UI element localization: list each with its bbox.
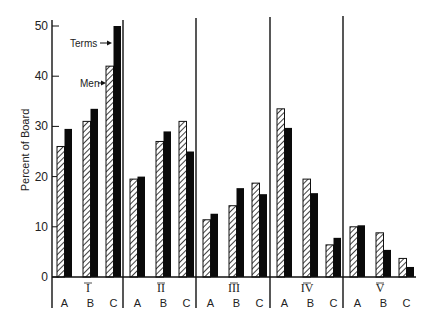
bar-terms-II-A (138, 177, 146, 277)
y-tick-label: 20 (35, 170, 49, 184)
subcategory-label: A (354, 297, 362, 309)
terms-annotation: Terms (70, 38, 97, 49)
bar-terms-II-B (164, 131, 172, 277)
bar-men-I-B (83, 121, 91, 277)
bar-men-IV-A (277, 109, 285, 277)
bar-men-IV-B (303, 179, 311, 277)
y-tick-label: 30 (35, 119, 49, 133)
y-tick-label: 0 (41, 270, 48, 284)
bars (57, 26, 414, 277)
bar-terms-I-B (91, 109, 99, 277)
bar-chart: Percent of Board 01020304050 IABCIIABCII… (0, 0, 434, 323)
bar-men-III-B (229, 206, 237, 277)
subcategory-label: C (183, 297, 191, 309)
subcategory-label: C (330, 297, 338, 309)
y-tick-label: 10 (35, 220, 49, 234)
bar-men-I-A (57, 146, 65, 277)
subcategory-label: A (61, 297, 69, 309)
y-tick-label: 40 (35, 69, 49, 83)
bar-terms-V-A (358, 225, 366, 277)
bar-men-I-C (106, 66, 114, 277)
y-axis-label: Percent of Board (19, 109, 31, 192)
x-axis-labels: IABCIIABCIIIABCIVABCVABC (61, 281, 411, 309)
subcategory-label: C (110, 297, 118, 309)
bar-terms-III-A (211, 214, 219, 277)
subcategory-label: A (134, 297, 142, 309)
bar-men-II-C (179, 121, 187, 277)
bar-men-III-A (203, 220, 211, 277)
subcategory-label: A (207, 297, 215, 309)
bar-terms-II-C (187, 152, 195, 278)
subcategory-label: B (160, 297, 167, 309)
bar-men-V-C (399, 258, 407, 277)
bar-terms-III-B (237, 188, 245, 277)
bar-men-II-A (130, 179, 138, 277)
bar-terms-III-C (260, 194, 268, 277)
men-annotation: Men (80, 78, 99, 89)
y-tick-label: 50 (35, 19, 49, 33)
bar-men-V-B (376, 233, 384, 277)
bar-men-II-B (156, 141, 164, 277)
subcategory-label: A (281, 297, 289, 309)
bar-terms-V-C (407, 267, 415, 277)
men-arrowhead-icon (101, 81, 106, 86)
bar-terms-I-A (65, 129, 73, 277)
bar-terms-V-B (384, 250, 392, 277)
subcategory-label: B (233, 297, 240, 309)
bar-men-III-C (252, 183, 260, 277)
subcategory-label: B (380, 297, 387, 309)
subcategory-label: B (307, 297, 314, 309)
subcategory-label: B (87, 297, 94, 309)
y-axis-ticks: 01020304050 (35, 19, 59, 284)
bar-men-IV-C (326, 245, 334, 277)
subcategory-label: C (256, 297, 264, 309)
subcategory-label: C (403, 297, 411, 309)
bar-men-V-A (350, 227, 358, 277)
terms-arrowhead-icon (107, 41, 112, 46)
bar-terms-IV-B (311, 193, 319, 277)
bar-terms-IV-C (334, 238, 342, 277)
bar-terms-IV-A (285, 128, 293, 277)
bar-terms-I-C (114, 26, 122, 277)
